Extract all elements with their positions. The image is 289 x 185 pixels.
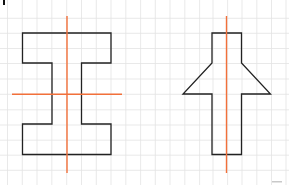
faint-mark [272, 181, 282, 183]
corner-mark [3, 0, 5, 5]
grid-lines [0, 0, 289, 185]
symmetry-diagram [0, 0, 289, 185]
